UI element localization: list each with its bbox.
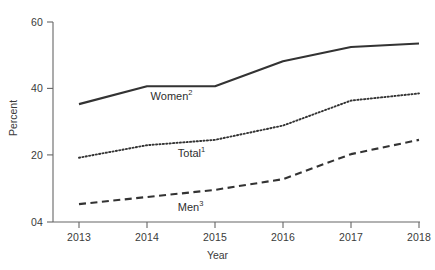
y-tick-label-20: 20 [15, 149, 43, 161]
chart-container: 60 40 20 04 2013 2014 2015 2016 2017 201… [0, 0, 435, 270]
series-label-total-footnote: 1 [201, 145, 205, 154]
series-label-women: Women2 [151, 90, 193, 102]
x-tick-label-2018: 2018 [399, 231, 435, 243]
chart-axes [47, 22, 420, 228]
series-label-total: Total1 [178, 147, 205, 159]
y-axis-ticks [47, 22, 53, 222]
y-axis-title: Percent [7, 88, 19, 148]
series-label-women-footnote: 2 [188, 88, 192, 97]
x-tick-label-2014: 2014 [127, 231, 167, 243]
chart-plot-area [0, 0, 435, 270]
series-line-women [79, 43, 419, 104]
chart-series-group [79, 43, 419, 204]
y-tick-label-60: 60 [15, 16, 43, 28]
series-label-women-text: Women [151, 90, 189, 102]
series-label-total-text: Total [178, 147, 201, 159]
x-axis-ticks [79, 222, 419, 228]
series-label-men: Men3 [178, 201, 204, 213]
x-tick-label-2016: 2016 [263, 231, 303, 243]
y-tick-label-40: 40 [15, 82, 43, 94]
x-tick-label-2017: 2017 [331, 231, 371, 243]
series-label-men-footnote: 3 [199, 199, 203, 208]
x-axis-title: Year [0, 249, 435, 261]
series-line-total [79, 93, 419, 157]
x-tick-label-2013: 2013 [59, 231, 99, 243]
series-label-men-text: Men [178, 201, 199, 213]
x-tick-label-2015: 2015 [195, 231, 235, 243]
y-tick-label-04: 04 [15, 216, 43, 228]
series-line-men [79, 140, 419, 204]
